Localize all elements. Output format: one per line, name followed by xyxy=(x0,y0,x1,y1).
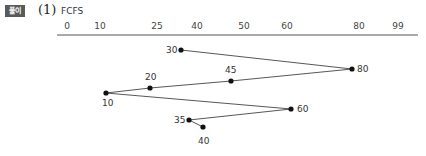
axis-tick-label: 0 xyxy=(64,21,70,31)
request-point-dot xyxy=(288,106,293,111)
request-point-label: 40 xyxy=(198,136,210,146)
request-point-label: 30 xyxy=(166,45,178,55)
axis-tick-label: 80 xyxy=(353,21,365,31)
axis-ticks: 010254050608099 xyxy=(64,21,404,31)
request-point-label: 10 xyxy=(102,98,114,108)
request-point-label: 35 xyxy=(174,115,185,125)
request-point-dot xyxy=(200,124,205,129)
request-point-label: 60 xyxy=(297,104,309,114)
axis-tick-label: 10 xyxy=(94,21,106,31)
axis-tick-label: 50 xyxy=(238,21,250,31)
axis-tick-label: 60 xyxy=(281,21,293,31)
request-point-label: 20 xyxy=(145,72,157,82)
request-points: 3080452010603540 xyxy=(102,45,369,146)
request-point-dot xyxy=(186,117,191,122)
request-point-dot xyxy=(147,85,152,90)
disk-schedule-diagram: 010254050608099 3080452010603540 xyxy=(0,0,426,156)
axis-tick-label: 40 xyxy=(191,21,203,31)
request-point-label: 45 xyxy=(225,65,236,75)
seek-path xyxy=(106,50,352,127)
axis-tick-label: 25 xyxy=(151,21,162,31)
request-point-label: 80 xyxy=(357,64,369,74)
request-point-dot xyxy=(103,90,108,95)
axis-tick-label: 99 xyxy=(392,21,404,31)
request-point-dot xyxy=(349,66,354,71)
request-point-dot xyxy=(228,78,233,83)
request-point-dot xyxy=(178,47,183,52)
